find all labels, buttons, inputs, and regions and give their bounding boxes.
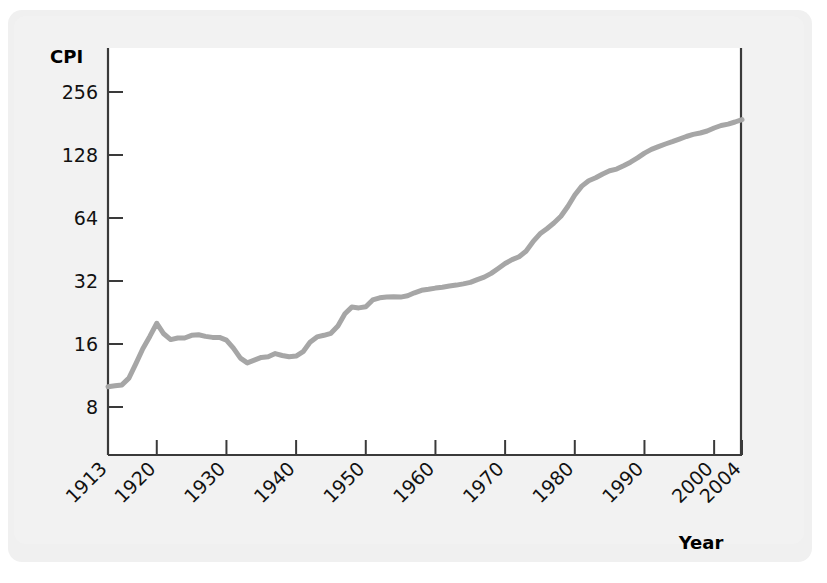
y-tick-label: 64 [74, 207, 98, 229]
x-tick-label: 1960 [389, 457, 439, 507]
x-tick-label: 1930 [180, 457, 230, 507]
y-tick-label: 32 [74, 270, 98, 292]
x-tick-label: 1913 [61, 457, 111, 507]
x-tick-label: 1950 [319, 457, 369, 507]
y-tick-label: 128 [62, 144, 98, 166]
y-tick-label: 256 [62, 81, 98, 103]
y-tick-label: 8 [86, 396, 98, 418]
x-axis-title: Year [678, 532, 724, 553]
x-tick-label: 1920 [110, 457, 160, 507]
x-tick-labels: 1913192019301940195019601970198019902000… [61, 457, 745, 507]
y-tick-labels: 8163264128256 [62, 81, 98, 418]
x-tick-label: 1980 [528, 457, 578, 507]
x-tick-label: 1940 [249, 457, 299, 507]
x-tick-label: 1990 [598, 457, 648, 507]
chart-page: 8163264128256 19131920193019401950196019… [0, 0, 827, 583]
cpi-line-chart: 8163264128256 19131920193019401950196019… [0, 0, 827, 583]
x-tick-label: 1970 [458, 457, 508, 507]
y-axis-title: CPI [50, 46, 83, 67]
y-tick-label: 16 [74, 333, 98, 355]
plot-area-background [109, 48, 741, 455]
